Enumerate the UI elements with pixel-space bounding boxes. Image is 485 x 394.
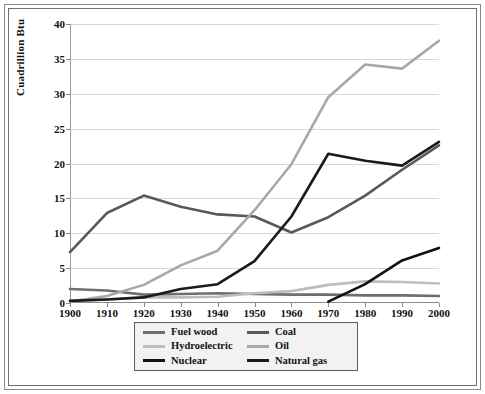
series-line-nuclear xyxy=(328,248,439,302)
legend-item-hydroelectric[interactable]: Hydroelectric xyxy=(143,341,247,352)
y-tick-label: 15 xyxy=(25,192,65,204)
legend-label: Fuel wood xyxy=(171,327,217,338)
legend-item-coal[interactable]: Coal xyxy=(247,327,351,338)
legend-swatch-icon xyxy=(247,331,269,334)
x-tick-mark xyxy=(402,303,403,307)
x-tick-mark xyxy=(144,303,145,307)
x-tick-mark xyxy=(291,303,292,307)
legend-swatch-icon xyxy=(247,345,269,348)
x-tick-mark xyxy=(328,303,329,307)
x-tick-mark xyxy=(365,303,366,307)
legend-swatch-icon xyxy=(143,359,165,362)
y-tick-label: 25 xyxy=(25,123,65,135)
x-tick-mark xyxy=(107,303,108,307)
y-tick-label: 5 xyxy=(25,262,65,274)
x-tick-mark xyxy=(255,303,256,307)
plot-area: 0510152025303540 19001910192019301940195… xyxy=(70,24,439,303)
x-tick-mark xyxy=(181,303,182,307)
line-chart: Cuadrillion Btu 0510152025303540 1900191… xyxy=(0,0,485,394)
x-tick-label: 2000 xyxy=(413,307,465,319)
legend-swatch-icon xyxy=(143,331,165,334)
legend-label: Nuclear xyxy=(171,356,207,367)
legend-item-fuel-wood[interactable]: Fuel wood xyxy=(143,327,247,338)
y-axis-title: Cuadrillion Btu xyxy=(14,0,26,96)
legend-swatch-icon xyxy=(143,345,165,348)
legend-label: Hydroelectric xyxy=(171,341,233,352)
legend-label: Coal xyxy=(275,327,296,338)
x-tick-mark xyxy=(70,303,71,307)
legend-item-natural-gas[interactable]: Natural gas xyxy=(247,356,351,367)
legend-label: Oil xyxy=(275,341,289,352)
y-tick-label: 35 xyxy=(25,53,65,65)
x-tick-mark xyxy=(439,303,440,307)
series-line-natural-gas xyxy=(70,142,439,301)
legend-item-oil[interactable]: Oil xyxy=(247,341,351,352)
y-tick-label: 30 xyxy=(25,88,65,100)
legend-swatch-icon xyxy=(247,359,269,362)
legend-label: Natural gas xyxy=(275,356,327,367)
series-line-coal xyxy=(70,145,439,252)
series-lines xyxy=(70,24,439,303)
legend-item-nuclear[interactable]: Nuclear xyxy=(143,356,247,367)
chart-legend: Fuel woodCoalHydroelectricOilNuclearNatu… xyxy=(134,322,358,371)
legend-grid: Fuel woodCoalHydroelectricOilNuclearNatu… xyxy=(135,323,357,370)
x-tick-mark xyxy=(218,303,219,307)
y-tick-label: 10 xyxy=(25,227,65,239)
y-tick-label: 40 xyxy=(25,18,65,30)
y-tick-label: 20 xyxy=(25,158,65,170)
